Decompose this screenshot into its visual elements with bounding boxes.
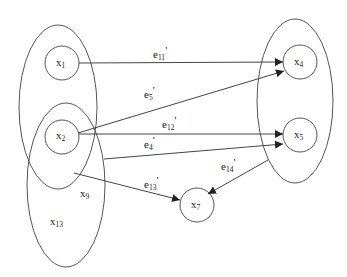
- edge-e12-label: e12': [162, 114, 176, 132]
- edge-e11: [79, 62, 283, 63]
- edge-e14-label: e14': [221, 156, 235, 174]
- node-x1-label: x1: [56, 56, 66, 70]
- group-b-ellipse: [27, 103, 105, 267]
- edge-e4-label: e4': [144, 134, 155, 152]
- node-x2-label: x2: [56, 129, 66, 143]
- edge-e11-label: e11': [153, 44, 167, 62]
- hypergraph-diagram: x1 x2 x4 x5 x7 x9 x13 e11' e5' e12' e4' …: [0, 0, 347, 277]
- edge-e5-label: e5': [144, 84, 155, 102]
- group-c-ellipse: [257, 19, 333, 183]
- node-x13-label: x13: [50, 215, 63, 229]
- edge-e13: [74, 173, 180, 200]
- node-x7-label: x7: [191, 198, 201, 212]
- group-a-ellipse: [19, 25, 97, 189]
- node-x9-label: x9: [80, 187, 90, 201]
- edge-e5: [78, 71, 284, 133]
- edge-e4: [104, 144, 283, 159]
- node-x5-label: x5: [294, 128, 304, 142]
- edge-e13-label: e13': [144, 174, 158, 192]
- node-x4-label: x4: [294, 55, 304, 69]
- edge-e14: [208, 160, 268, 194]
